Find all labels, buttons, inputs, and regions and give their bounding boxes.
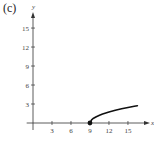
y-tick-label: 15 bbox=[22, 25, 30, 33]
y-axis-label: y bbox=[31, 3, 36, 11]
start-point-marker bbox=[88, 121, 93, 126]
x-axis-arrow-icon bbox=[144, 121, 150, 125]
y-tick-label: 3 bbox=[26, 101, 30, 109]
x-tick-label: 6 bbox=[69, 127, 73, 135]
function-graph: xy36912153691215 bbox=[0, 0, 154, 143]
function-curve bbox=[90, 106, 137, 123]
y-tick-label: 6 bbox=[26, 82, 30, 90]
x-tick-label: 15 bbox=[124, 127, 132, 135]
x-tick-label: 12 bbox=[105, 127, 113, 135]
x-tick-label: 9 bbox=[88, 127, 92, 135]
x-tick-label: 3 bbox=[50, 127, 54, 135]
y-tick-label: 12 bbox=[22, 44, 30, 52]
y-axis-arrow-icon bbox=[31, 12, 35, 18]
y-tick-label: 9 bbox=[26, 63, 30, 71]
x-axis-label: x bbox=[150, 119, 154, 127]
